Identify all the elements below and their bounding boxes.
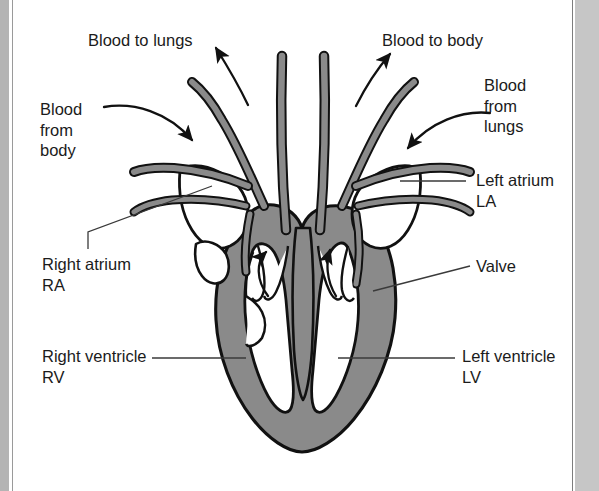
label-left-ventricle: Left ventricle LV — [462, 346, 556, 387]
label-right-atrium: Right atrium RA — [42, 254, 131, 295]
label-right-ventricle: Right ventricle RV — [42, 346, 147, 387]
label-left-atrium: Left atrium LA — [476, 170, 554, 211]
from-body-arrow — [104, 106, 192, 140]
interventricular-septum — [293, 228, 314, 400]
label-blood-from-lungs: Blood from lungs — [484, 75, 526, 137]
figure-page: Blood to lungs Blood to body Blood from … — [0, 0, 599, 491]
label-valve: Valve — [476, 256, 516, 277]
from-lungs-arrow — [408, 113, 490, 148]
label-blood-from-body: Blood from body — [40, 99, 82, 161]
label-blood-to-lungs: Blood to lungs — [88, 30, 193, 51]
to-lungs-arrow — [216, 48, 248, 105]
label-blood-to-body: Blood to body — [382, 30, 483, 51]
to-body-arrow — [356, 54, 390, 106]
heart-cross-section-diagram — [0, 0, 599, 491]
